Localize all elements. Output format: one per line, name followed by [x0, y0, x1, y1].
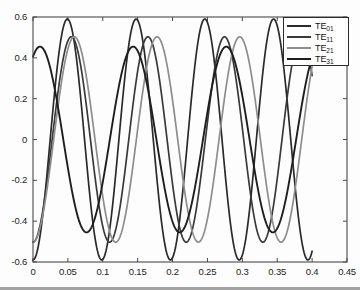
legend-item-te11[interactable]: TE11 [284, 31, 348, 42]
legend-line-swatch [287, 36, 311, 38]
legend[interactable]: TE01TE11TE21TE31 [283, 17, 349, 66]
legend-item-te21[interactable]: TE21 [284, 42, 348, 53]
y-tick-label: 0.2 [1, 93, 27, 104]
legend-item-label: TE21 [315, 43, 333, 53]
x-tick-label: 0.35 [260, 266, 294, 277]
y-tick-label: 0.4 [1, 52, 27, 63]
legend-item-label: TE01 [315, 21, 333, 31]
legend-line-swatch [287, 58, 311, 60]
y-tick-label: -0.2 [1, 174, 27, 185]
x-tick-label: 0.4 [295, 266, 329, 277]
figure-canvas: 0.60.40.20-0.2-0.4-0.6 00.050.10.150.20.… [0, 0, 360, 290]
legend-line-swatch [287, 47, 311, 49]
y-tick-label: -0.4 [1, 215, 27, 226]
x-tick-label: 0.1 [86, 266, 120, 277]
legend-item-te31[interactable]: TE31 [284, 53, 348, 64]
x-tick-label: 0 [16, 266, 50, 277]
x-tick-label: 0.25 [190, 266, 224, 277]
x-tick-label: 0.15 [121, 266, 155, 277]
x-tick-label: 0.05 [51, 266, 85, 277]
y-tick-label: 0.6 [1, 11, 27, 22]
legend-item-te01[interactable]: TE01 [284, 20, 348, 31]
x-tick-label: 0.2 [156, 266, 190, 277]
x-tick-label: 0.45 [330, 266, 360, 277]
legend-item-label: TE11 [315, 32, 333, 42]
x-tick-label: 0.3 [225, 266, 259, 277]
y-tick-label: 0 [1, 134, 27, 145]
legend-line-swatch [287, 25, 311, 27]
legend-item-label: TE31 [315, 54, 333, 64]
